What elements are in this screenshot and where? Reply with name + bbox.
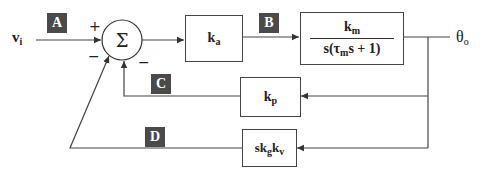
input-symbol: v — [12, 29, 20, 45]
minus-sign-c: − — [138, 54, 150, 70]
plant-transfer-function: km s(τms + 1) — [310, 19, 394, 58]
ka-label: ka — [208, 30, 221, 47]
minus-sign-d: − — [88, 48, 100, 64]
ka-block: ka — [185, 15, 243, 62]
plus-sign: + — [89, 18, 101, 34]
tachometer-block: skgkv — [242, 129, 297, 167]
plant-block: km s(τms + 1) — [300, 12, 404, 65]
signal-tag-a: A — [47, 13, 67, 33]
output-label: θo — [456, 28, 469, 47]
input-subscript: i — [20, 36, 23, 47]
signal-tag-c: C — [151, 74, 171, 94]
kp-label: kp — [264, 89, 277, 106]
input-label: vi — [12, 29, 22, 47]
summing-junction: Σ — [102, 20, 142, 60]
kp-block: kp — [240, 77, 301, 117]
tachometer-label: skgkv — [255, 140, 285, 157]
signal-tag-d: D — [145, 127, 165, 147]
signal-tag-b: B — [259, 13, 279, 33]
plant-numerator: km — [342, 19, 362, 38]
plant-denominator: s(τms + 1) — [323, 39, 380, 58]
